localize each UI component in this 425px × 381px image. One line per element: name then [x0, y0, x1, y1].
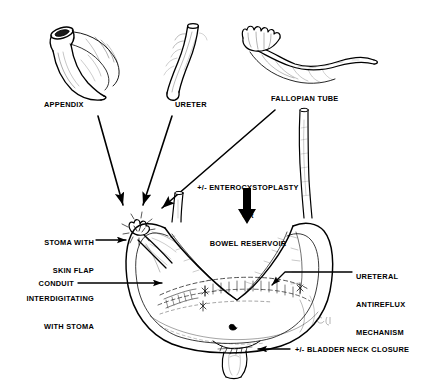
arrow-ureter-to-conduit [143, 116, 172, 205]
label-antireflux-line2: ANTIREFLUX [356, 300, 425, 309]
appendix-drawing [50, 25, 120, 100]
label-enterocystoplasty-line1: +/- ENTEROCYSTOPLASTY [188, 183, 308, 192]
label-antireflux-line1: URETERAL [356, 272, 425, 281]
label-stoma-line1: STOMA WITH [0, 238, 94, 247]
label-antireflux: URETERAL ANTIREFLUX MECHANISM [356, 253, 425, 356]
label-conduit: CONDUIT [0, 279, 74, 288]
bowel-limb-left [172, 191, 183, 222]
pointer-antireflux [272, 272, 352, 285]
label-stoma-line2: SKIN FLAP [0, 266, 94, 275]
label-appendix: APPENDIX [44, 100, 84, 109]
fallopian-tube-drawing [242, 26, 377, 83]
label-bladder-neck-closure: +/- BLADDER NECK CLOSURE [295, 345, 409, 354]
conduit-stoma-drawing [122, 212, 180, 272]
label-enterocystoplasty-line3: BOWEL RESERVOIR [188, 239, 308, 248]
label-enterocystoplasty: +/- ENTEROCYSTOPLASTY OR BOWEL RESERVOIR [188, 164, 308, 267]
figure-canvas: APPENDIX URETER FALLOPIAN TUBE +/- ENTER… [0, 0, 425, 381]
bladder-neck-drawing [213, 341, 260, 379]
label-enterocystoplasty-line2: OR [188, 211, 308, 220]
arrow-appendix-to-conduit [98, 116, 123, 205]
label-fallopian-tube: FALLOPIAN TUBE [271, 94, 339, 103]
label-ureter: URETER [175, 100, 207, 109]
label-stoma-line4: WITH STOMA [0, 322, 94, 331]
label-stoma-line3: INTERDIGITATING [0, 294, 94, 303]
ureter-drawing [164, 24, 207, 100]
label-antireflux-line3: MECHANISM [356, 328, 425, 337]
